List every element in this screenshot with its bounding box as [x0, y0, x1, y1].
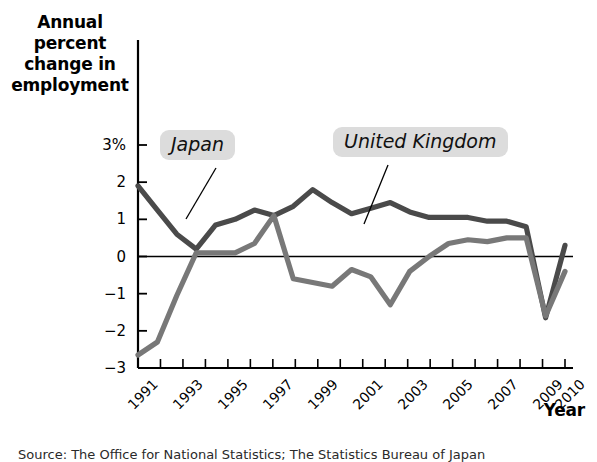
source-note: Source: The Office for National Statisti…: [18, 447, 485, 462]
callout-leader-japan: [186, 168, 216, 219]
y-tick-label: 0: [86, 248, 126, 266]
y-tick-label: −3: [86, 359, 126, 377]
y-tick-label: 1: [86, 210, 126, 228]
series-label-japan: Japan: [160, 130, 235, 160]
callout-leader-united-kingdom: [364, 165, 388, 224]
y-tick-label: 2: [86, 173, 126, 191]
series-label-united-kingdom: United Kingdom: [333, 127, 508, 157]
series-line-japan: [138, 216, 565, 355]
y-tick-label: 3%: [86, 136, 126, 154]
y-tick-label: −1: [86, 285, 126, 303]
y-tick-label: −2: [86, 322, 126, 340]
